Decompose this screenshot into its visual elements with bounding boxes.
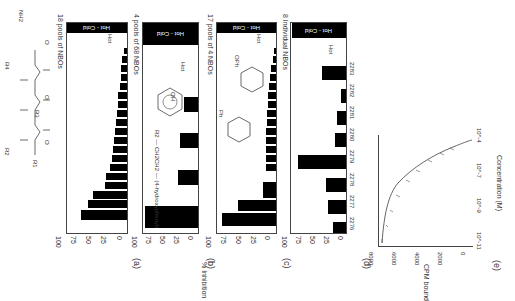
panel-d-title: 8 Individual NBOs (282, 14, 289, 70)
bar-2276 (333, 222, 346, 233)
bar (118, 92, 127, 99)
panel-d-y-tick-50: 50 (309, 236, 316, 244)
bar (116, 119, 127, 126)
bar (271, 65, 276, 72)
bar (122, 56, 127, 63)
bar (124, 48, 127, 54)
panel-d-y-tick-0: 0 (337, 236, 344, 240)
panel-d-y-tick-75: 75 (295, 236, 302, 244)
bar (238, 200, 276, 211)
panel-a-title: 18 pools of NBOs (57, 14, 64, 69)
bar (93, 191, 127, 199)
competition-binding-curve (378, 135, 473, 247)
biphenyl-ring-diagram (225, 115, 253, 145)
bar (106, 173, 127, 180)
bar (113, 146, 127, 153)
bar (266, 137, 276, 144)
bar-2283 (322, 66, 346, 80)
panel-e-y-axis-label: CPM bound (423, 264, 430, 301)
panel-e-y-tick-8000: 8000 (368, 252, 374, 265)
panel-b-hot-cold-bar: Hot - Cold (143, 23, 198, 45)
panel-c-y-tick-25: 25 (250, 236, 257, 244)
structure-r3-label: R3 (34, 110, 40, 118)
panel-c-label: (c) (282, 258, 292, 269)
bar (266, 155, 276, 162)
phenoxyphenyl-ring-diagram (238, 65, 266, 95)
category-label-2282: 2282 (349, 84, 355, 97)
hydroxyphenyl-ring-diagram (155, 85, 185, 120)
panel-d-y-tick-100: 100 (281, 236, 288, 248)
panel-c-title: 17 pools of 4 NBOs (207, 14, 214, 75)
panel-d-hot-label: Hot (328, 45, 334, 54)
bar (273, 56, 276, 63)
panel-e-y-tick-2000: 2000 (437, 252, 443, 265)
bar (267, 119, 276, 126)
panel-b-plot-frame (142, 22, 199, 234)
panel-c-y-tick-0: 0 (264, 236, 271, 240)
panel-c-ph-label: Ph (218, 110, 224, 117)
panel-e-y-tick-4000: 4000 (414, 252, 420, 265)
panel-e-x-tick-1e-9: 10^-9 (476, 198, 482, 213)
bar-2277 (328, 200, 346, 214)
category-label-2279: 2279 (349, 150, 355, 163)
bar (121, 65, 127, 72)
category-label-2277: 2277 (349, 195, 355, 208)
bar-2281 (337, 111, 346, 125)
category-label-2278: 2278 (349, 173, 355, 186)
bar (263, 182, 276, 198)
structure-o-label: O (44, 40, 50, 45)
panel-b-y-tick-50: 50 (159, 236, 166, 244)
bar-2278 (326, 178, 346, 192)
bar (266, 146, 276, 153)
nbo-structure-diagram (10, 40, 60, 170)
bar (222, 213, 276, 226)
bar (184, 97, 198, 112)
bar (268, 92, 276, 99)
panel-b-y-tick-0: 0 (187, 236, 194, 240)
bar (180, 133, 198, 148)
panel-e-x-tick-1e-11: 10^-11 (476, 232, 482, 250)
structure-o-label: O (44, 95, 50, 100)
panel-e-label: (e) (492, 260, 502, 271)
bar-2282 (341, 89, 346, 103)
panel-a-y-tick-25: 25 (100, 236, 107, 244)
structure-r2-label: R2 (4, 148, 10, 156)
panel-b-y-tick-25: 25 (173, 236, 180, 244)
bar (178, 170, 198, 185)
bar (118, 101, 127, 108)
panel-a-y-tick-0: 0 (116, 236, 123, 240)
bar (145, 206, 198, 228)
structure-nh2-label: NH2 (18, 10, 24, 22)
bar (115, 128, 127, 135)
bar (88, 200, 127, 208)
panel-b-y-tick-100: 100 (131, 236, 138, 248)
panel-b-hot-label: Hot (180, 62, 186, 71)
bar (120, 83, 127, 90)
panel-a-hot-cold-bar: Hot - Cold (67, 23, 127, 33)
bar (105, 182, 127, 189)
bar (274, 48, 276, 54)
panel-d-y-tick-25: 25 (323, 236, 330, 244)
panel-c-y-tick-100: 100 (205, 236, 212, 248)
bar (114, 137, 127, 144)
bar (121, 74, 127, 81)
category-label-2281: 2281 (349, 106, 355, 119)
structure-o-label: O (44, 140, 50, 145)
panel-c-hot-cold-bar: Hot - Cold (217, 23, 276, 33)
panel-e-y-tick-0: 0 (460, 252, 466, 255)
panel-a-hot-label: Hot (107, 34, 113, 43)
panel-a-y-tick-75: 75 (70, 236, 77, 244)
panel-a-label: (a) (132, 258, 142, 269)
panel-c-hot-label: Hot (256, 34, 262, 43)
panel-b-annotation: R2 — CH2CH2 — (4-hydroxyphenyl) (154, 130, 160, 228)
panel-c-y-tick-75: 75 (220, 236, 227, 244)
bar (112, 155, 127, 162)
panel-c-y-tick-50: 50 (235, 236, 242, 244)
category-label-2283: 2283 (349, 62, 355, 75)
bar (268, 101, 276, 108)
bar-2279 (298, 155, 346, 169)
bar (270, 74, 276, 81)
bar (266, 164, 276, 171)
panel-c-oph-label: OPh (234, 55, 240, 67)
bar (117, 110, 127, 117)
